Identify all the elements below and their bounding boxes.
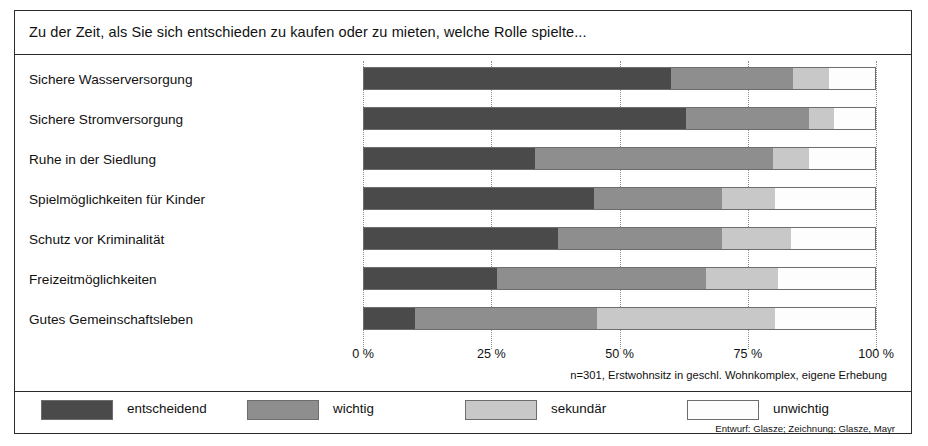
chart-band: Sichere WasserversorgungSichere Stromver…	[15, 55, 911, 392]
legend-label: sekundär	[551, 401, 606, 416]
bar-track	[363, 67, 876, 90]
bar-segment-wichtig	[671, 68, 794, 89]
bar-segment-entscheidend	[364, 228, 558, 249]
bar-segment-entscheidend	[364, 68, 671, 89]
bar-segment-sekundär	[773, 148, 809, 169]
legend-swatch-icon	[687, 400, 759, 420]
category-label: Schutz vor Kriminalität	[29, 232, 164, 248]
bar-segment-entscheidend	[364, 308, 415, 329]
source-note: n=301, Erstwohnsitz in geschl. Wohnkompl…	[15, 369, 887, 381]
bar-row	[363, 67, 876, 90]
figure-frame: Zu der Zeit, als Sie sich entschieden zu…	[14, 10, 912, 434]
bar-segment-sekundär	[722, 228, 791, 249]
bar-segment-sekundär	[809, 108, 835, 129]
bar-segment-wichtig	[558, 228, 722, 249]
bar-segment-unwichtig	[791, 228, 875, 249]
legend-swatch-icon	[247, 400, 319, 420]
x-tick-label: 50 %	[605, 347, 634, 361]
bar-segment-unwichtig	[829, 68, 875, 89]
bar-row	[363, 307, 876, 330]
title-band: Zu der Zeit, als Sie sich entschieden zu…	[15, 11, 911, 55]
legend-swatch-icon	[465, 400, 537, 420]
bar-track	[363, 107, 876, 130]
bar-segment-wichtig	[686, 108, 809, 129]
bar-segment-entscheidend	[364, 148, 535, 169]
x-tick-label: 0 %	[352, 347, 374, 361]
bar-segment-unwichtig	[775, 188, 875, 209]
bar-track	[363, 147, 876, 170]
bar-segment-wichtig	[415, 308, 596, 329]
bar-segment-sekundär	[597, 308, 776, 329]
bar-row	[363, 147, 876, 170]
legend-label: entscheidend	[127, 401, 207, 416]
category-label: Gutes Gemeinschaftsleben	[29, 312, 193, 328]
category-label: Freizeitmöglichkeiten	[29, 272, 157, 288]
chart-title: Zu der Zeit, als Sie sich entschieden zu…	[29, 24, 587, 40]
bar-segment-wichtig	[535, 148, 773, 169]
gridline-100	[876, 61, 877, 349]
bar-segment-sekundär	[706, 268, 778, 289]
x-tick-label: 100 %	[858, 347, 894, 361]
bar-track	[363, 227, 876, 250]
bar-segment-sekundär	[722, 188, 776, 209]
bar-row	[363, 107, 876, 130]
bar-segment-entscheidend	[364, 108, 686, 129]
category-label-column: Sichere WasserversorgungSichere Stromver…	[15, 55, 363, 337]
bar-segment-entscheidend	[364, 268, 497, 289]
plot-area: 0 %25 %50 %75 %100 %	[363, 55, 876, 355]
bar-track	[363, 267, 876, 290]
bar-track	[363, 307, 876, 330]
legend-swatch-icon	[41, 400, 113, 420]
category-label: Sichere Stromversorgung	[29, 112, 183, 128]
legend-label: wichtig	[333, 401, 374, 416]
bar-segment-unwichtig	[778, 268, 875, 289]
bar-segment-unwichtig	[775, 308, 875, 329]
category-label: Sichere Wasserversorgung	[29, 72, 192, 88]
category-label: Ruhe in der Siedlung	[29, 152, 156, 168]
bar-segment-unwichtig	[834, 108, 875, 129]
category-label: Spielmöglichkeiten für Kinder	[29, 192, 205, 208]
legend: entscheidendwichtigsekundärunwichtig Ent…	[15, 392, 911, 434]
x-tick-label: 75 %	[733, 347, 762, 361]
x-tick-label: 25 %	[477, 347, 506, 361]
bar-segment-unwichtig	[809, 148, 875, 169]
bar-segment-wichtig	[497, 268, 707, 289]
legend-label: unwichtig	[773, 401, 829, 416]
credit-line: Entwurf: Glasze; Zeichnung: Glasze, Mayr	[715, 423, 895, 434]
bar-row	[363, 267, 876, 290]
bar-row	[363, 227, 876, 250]
bar-segment-wichtig	[594, 188, 722, 209]
bar-track	[363, 187, 876, 210]
bar-segment-sekundär	[793, 68, 829, 89]
bar-row	[363, 187, 876, 210]
bar-segment-entscheidend	[364, 188, 594, 209]
